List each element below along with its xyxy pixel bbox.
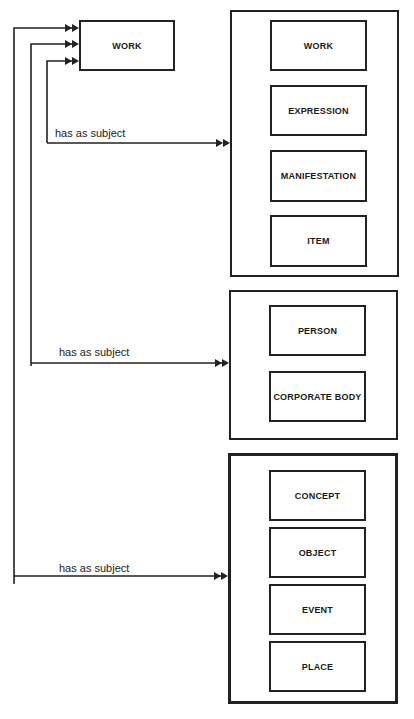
entity-object: OBJECT [269, 527, 366, 578]
entity-item: ITEM [270, 215, 367, 267]
entity-event: EVENT [269, 584, 366, 635]
arrowheads [65, 24, 230, 580]
entity-concept: CONCEPT [269, 470, 366, 521]
entity-place: PLACE [269, 641, 366, 692]
source-work-entity: WORK [79, 20, 175, 71]
entity-person: PERSON [269, 305, 366, 356]
relationship-label-1: has as subject [55, 127, 125, 139]
entity-expression: EXPRESSION [270, 85, 367, 136]
relationship-label-2: has as subject [59, 346, 129, 358]
relationship-label-3: has as subject [59, 562, 129, 574]
entity-work: WORK [270, 20, 367, 71]
entity-corporate-body: CORPORATE BODY [269, 371, 366, 422]
entity-manifestation: MANIFESTATION [270, 150, 367, 202]
